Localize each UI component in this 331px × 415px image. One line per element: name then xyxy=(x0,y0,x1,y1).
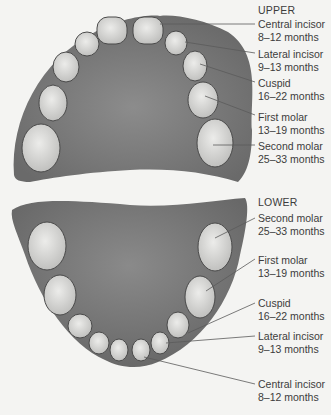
label-name: Central incisor xyxy=(258,18,325,31)
label-range: 9–13 months xyxy=(258,343,323,356)
upper-arch xyxy=(14,16,255,182)
label-name: Cuspid xyxy=(258,77,325,90)
lower-cuspid-left xyxy=(68,314,92,338)
upper-label-second-molar: Second molar 25–33 months xyxy=(258,140,325,165)
label-name: First molar xyxy=(258,111,325,124)
upper-first-molar-left xyxy=(39,85,67,121)
label-range: 25–33 months xyxy=(258,153,325,166)
lower-label-central-incisor: Central incisor 8–12 months xyxy=(258,378,325,403)
label-name: Central incisor xyxy=(258,378,325,391)
upper-label-cuspid: Cuspid 16–22 months xyxy=(258,77,325,102)
upper-label-lateral-incisor: Lateral incisor 9–13 months xyxy=(258,48,323,73)
upper-central-incisor-left xyxy=(97,17,127,44)
label-range: 16–22 months xyxy=(258,90,325,103)
label-range: 25–33 months xyxy=(258,225,325,238)
label-name: Lateral incisor xyxy=(258,48,323,61)
label-name: First molar xyxy=(258,254,325,267)
lower-label-cuspid: Cuspid 16–22 months xyxy=(258,297,325,322)
lower-second-molar-left xyxy=(28,222,66,270)
lower-arch xyxy=(12,198,255,384)
upper-cuspid-left xyxy=(53,52,79,82)
label-range: 9–13 months xyxy=(258,61,323,74)
lower-first-molar-right xyxy=(185,276,215,318)
lower-lateral-incisor-left xyxy=(89,332,109,354)
label-name: Second molar xyxy=(258,140,325,153)
label-name: Lateral incisor xyxy=(258,330,323,343)
upper-label-central-incisor: Central incisor 8–12 months xyxy=(258,18,325,43)
upper-cuspid-right xyxy=(183,51,207,81)
lower-cuspid-right xyxy=(167,312,189,338)
upper-lateral-incisor-left xyxy=(75,32,99,56)
upper-label-first-molar: First molar 13–19 months xyxy=(258,111,325,136)
label-name: Second molar xyxy=(258,212,325,225)
upper-second-molar-right xyxy=(197,119,233,167)
upper-central-incisor-right xyxy=(133,17,163,44)
upper-first-molar-right xyxy=(188,82,218,118)
label-range: 13–19 months xyxy=(258,124,325,137)
lower-label-second-molar: Second molar 25–33 months xyxy=(258,212,325,237)
label-range: 8–12 months xyxy=(258,31,325,44)
upper-second-molar-left xyxy=(22,124,60,172)
lower-central-incisor-left xyxy=(110,339,128,361)
lower-first-molar-left xyxy=(44,275,76,315)
lower-heading: LOWER xyxy=(258,196,298,208)
label-range: 13–19 months xyxy=(258,267,325,280)
lower-label-first-molar: First molar 13–19 months xyxy=(258,254,325,279)
upper-heading: UPPER xyxy=(258,4,295,16)
lower-second-molar-right xyxy=(198,223,232,271)
label-name: Cuspid xyxy=(258,297,325,310)
label-range: 8–12 months xyxy=(258,391,325,404)
upper-lateral-incisor-right xyxy=(165,31,187,55)
label-range: 16–22 months xyxy=(258,310,325,323)
lower-label-lateral-incisor: Lateral incisor 9–13 months xyxy=(258,330,323,355)
